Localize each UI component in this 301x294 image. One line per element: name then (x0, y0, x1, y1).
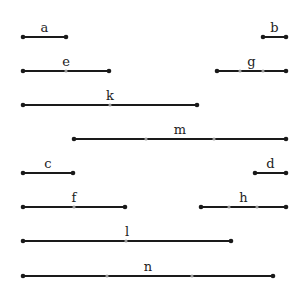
endpoint-dot (71, 171, 76, 176)
endpoint-dot (21, 205, 26, 210)
midpoint-dot (105, 274, 108, 277)
segment-label: f (72, 190, 78, 205)
endpoint-dot (21, 171, 26, 176)
endpoint-dot (21, 35, 26, 40)
endpoint-dot (72, 137, 77, 142)
midpoint-dot (238, 69, 241, 72)
midpoint-dot (227, 205, 230, 208)
segment-label: d (266, 156, 274, 171)
endpoint-dot (284, 35, 289, 40)
endpoint-dot (21, 103, 26, 108)
segment-k: k (21, 88, 200, 107)
endpoint-dot (199, 205, 204, 210)
segment-e: e (21, 54, 112, 73)
segment-label: c (44, 156, 51, 171)
segment-b: b (261, 20, 289, 39)
segment-label: b (270, 20, 278, 35)
segment-label: h (239, 190, 248, 205)
endpoint-dot (107, 69, 112, 74)
midpoint-dot (64, 69, 67, 72)
segment-label: l (125, 224, 129, 239)
segment-label: g (247, 54, 255, 69)
midpoint-dot (255, 205, 258, 208)
segment-label: k (106, 88, 114, 103)
segment-f: f (21, 190, 128, 209)
segment-label: m (174, 122, 186, 137)
midpoint-dot (190, 274, 193, 277)
segment-a: a (21, 20, 69, 39)
endpoint-dot (284, 69, 289, 74)
segment-d: d (253, 156, 289, 175)
endpoint-dot (271, 274, 276, 279)
endpoint-dot (64, 35, 69, 40)
endpoint-dot (284, 205, 289, 210)
endpoint-dot (284, 137, 289, 142)
segment-h: h (199, 190, 289, 209)
segment-label: n (144, 259, 153, 274)
segment-label: e (62, 54, 70, 69)
endpoint-dot (229, 239, 234, 244)
midpoint-dot (144, 137, 147, 140)
segment-c: c (21, 156, 76, 175)
segment-m: m (72, 122, 289, 141)
segment-n: n (21, 259, 276, 278)
endpoint-dot (21, 69, 26, 74)
midpoint-dot (108, 103, 111, 106)
segment-label: a (41, 20, 49, 35)
endpoint-dot (284, 171, 289, 176)
segment-l: l (21, 224, 234, 243)
segment-diagram: abegkmcdfhln (0, 0, 301, 294)
midpoint-dot (72, 205, 75, 208)
midpoint-dot (261, 69, 264, 72)
endpoint-dot (21, 239, 26, 244)
endpoint-dot (195, 103, 200, 108)
endpoint-dot (253, 171, 258, 176)
endpoint-dot (261, 35, 266, 40)
endpoint-dot (123, 205, 128, 210)
midpoint-dot (212, 137, 215, 140)
endpoint-dot (215, 69, 220, 74)
segment-g: g (215, 54, 289, 73)
midpoint-dot (124, 239, 127, 242)
endpoint-dot (21, 274, 26, 279)
